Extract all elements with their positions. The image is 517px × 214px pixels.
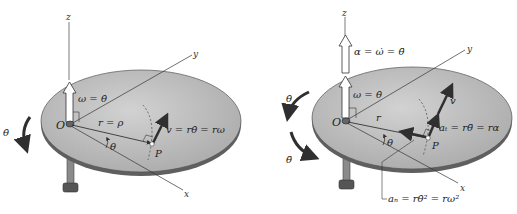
angle-label-right: θ: [387, 137, 393, 148]
omega-label-left: ω = θ̇: [78, 93, 107, 104]
alpha-label-right: α = ω̇ = θ̈: [354, 46, 404, 57]
theta-dot-label-right: θ̇: [286, 93, 292, 104]
point-label-right: P: [431, 140, 439, 151]
z-axis-label-left: z: [65, 12, 71, 22]
y-axis-label-right: y: [466, 44, 473, 54]
point-label-left: P: [154, 148, 162, 159]
normal-accel-label-right: aₙ = rθ̇² = rω²: [388, 193, 459, 204]
figure-left: z y x ω = θ̇ O r = ρ θ P v = rθ̇ = rω θ̇: [3, 12, 241, 199]
x-axis-label-left: x: [184, 189, 189, 199]
figure-right: z y x α = ω̇ = θ̈ ω = θ̇ O r θ v: [286, 8, 512, 204]
z-axis-label-right: z: [341, 8, 347, 18]
rotation-arrow-left: [24, 117, 30, 148]
radius-label-left: r = ρ: [98, 117, 124, 128]
theta-dot-label-left: θ̇: [3, 127, 9, 138]
alpha-vector-right: [339, 35, 352, 73]
x-axis-label-right: x: [460, 183, 465, 193]
omega-label-right: ω = θ̇: [353, 89, 382, 100]
origin-label-left: O: [56, 119, 65, 132]
theta-ddot-label-right: θ̈: [286, 154, 292, 165]
y-axis-label-left: y: [192, 49, 199, 59]
origin-label-right: O: [332, 116, 341, 129]
velocity-label-left: v = rθ̇ = rω: [166, 124, 225, 135]
rotation-arrow-theta-ddot-right: [291, 132, 314, 157]
rotating-disk-diagram: z y x ω = θ̇ O r = ρ θ P v = rθ̇ = rω θ̇: [0, 0, 517, 214]
angle-label-left: θ: [110, 141, 116, 152]
velocity-label-right: v: [450, 95, 456, 106]
tangential-accel-label-right: aₜ = rθ̈ = rα: [439, 122, 499, 133]
